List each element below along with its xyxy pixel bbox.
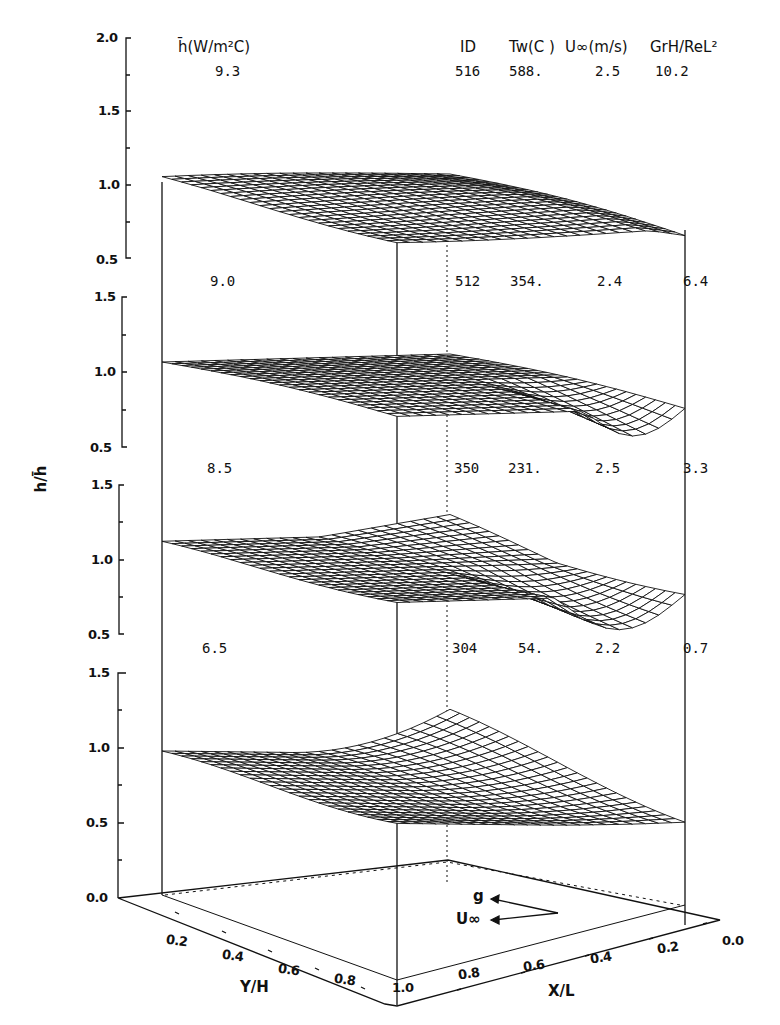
z-tick: 0.5 [96,252,118,267]
uinf-value: 2.2 [595,640,620,656]
z-tick: 1.0 [88,740,110,755]
z-tick: 1.5 [91,477,113,492]
z-tick: 2.0 [96,30,118,45]
x-axis-label: X/L [548,982,575,1000]
z-axis-panel-4 [118,673,126,898]
id-value: 516 [455,63,480,79]
surface-plot-figure [0,0,780,1025]
tw-value: 588. [509,63,543,79]
surface-panel-3 [162,515,685,630]
z-tick: 1.0 [91,552,113,567]
x-tick: 0.4 [589,949,612,967]
id-value: 304 [452,640,477,656]
z-tick: 1.0 [98,177,120,192]
x-tick: 0.8 [457,965,480,983]
z-axis-panel-2 [122,297,127,447]
z-tick: 0.5 [86,815,108,830]
col-id-header: ID [460,38,476,56]
surface-panel-4 [162,709,685,825]
y-axis-label: Y/H [240,978,269,996]
hbar-value: 6.5 [202,640,227,656]
surface-panel-1 [162,173,685,243]
col-uinf-header: U∞(m/s) [565,38,628,56]
z-tick: 0.5 [90,440,112,455]
y-tick: 0.6 [277,961,300,979]
x-tick: 0.6 [522,957,545,975]
x-tick: 0.2 [656,939,679,957]
z-tick: 1.5 [88,665,110,680]
z-tick: 1.5 [94,289,116,304]
tw-value: 54. [518,640,543,656]
hbar-value: 9.0 [210,273,235,289]
freestream-label: U∞ [456,910,481,928]
uinf-value: 2.5 [595,460,620,476]
grre-value: 0.7 [683,640,708,656]
col-tw-header: Tw(C ) [509,38,555,56]
grre-value: 6.4 [683,273,708,289]
z-tick: 0.0 [86,890,108,905]
tw-value: 231. [508,460,542,476]
hbar-value: 8.5 [207,460,232,476]
z-tick: 1.0 [94,364,116,379]
z-axis-panel-1 [126,38,131,258]
uinf-value: 2.5 [595,63,620,79]
base-outline [118,860,720,1006]
id-value: 350 [454,460,479,476]
z-axis-panel-3 [119,485,124,634]
tw-value: 354. [510,273,544,289]
z-axis-label: h/h̄ [32,466,50,493]
flow-direction-arrows [491,895,558,924]
id-value: 512 [455,273,480,289]
grre-value: 3.3 [683,460,708,476]
hbar-header: h̄(W/m²C) [178,38,250,56]
z-tick: 1.5 [98,103,120,118]
col-grre-header: GrH/ReL² [650,38,717,56]
surface-panel-2 [162,354,685,436]
y-tick: 1.0 [392,980,414,995]
y-tick: 0.4 [221,947,244,965]
gravity-label: g [473,887,484,905]
y-tick: 0.8 [333,971,356,989]
x-tick: 0.0 [722,933,744,948]
y-tick: 0.2 [165,932,188,950]
grre-value: 10.2 [655,63,689,79]
z-tick: 0.5 [88,627,110,642]
hbar-value: 9.3 [215,63,240,79]
uinf-value: 2.4 [597,273,622,289]
